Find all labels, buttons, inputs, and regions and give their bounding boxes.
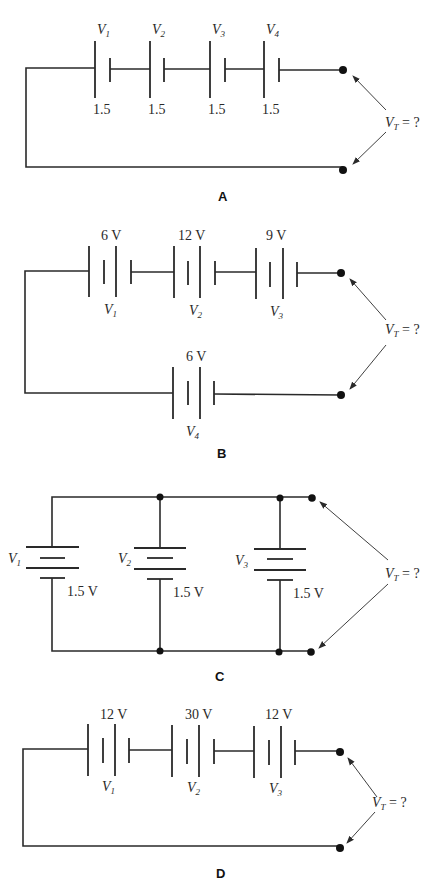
label-c-v1: V1: [8, 551, 21, 568]
circuit-b: 6 V 12 V 9 V 6 V V1 V2 V3 V4 VT = ? B: [25, 228, 420, 461]
label-a-v1: V1: [97, 22, 110, 39]
terminal-d-top: [336, 748, 344, 756]
value-d-v1: 12 V: [100, 707, 127, 722]
value-b-v3: 9 V: [266, 228, 286, 243]
label-a-v4: V4: [266, 22, 280, 39]
value-b-v2: 12 V: [178, 228, 205, 243]
cell-b-v2: [174, 246, 215, 298]
label-c-v2: V2: [118, 551, 132, 568]
arrow-icon: [353, 132, 386, 164]
label-a-v2: V2: [152, 22, 166, 39]
value-c-v2: 1.5 V: [173, 585, 204, 600]
value-a-v3: 1.5: [208, 102, 226, 117]
arrow-icon: [348, 758, 377, 797]
caption-b: B: [217, 446, 226, 461]
arrow-icon: [320, 502, 388, 560]
terminal-d-bottom: [336, 844, 344, 852]
label-d-v3: V3: [269, 781, 283, 798]
arrow-icon: [319, 584, 388, 648]
total-label-a: VT = ?: [385, 115, 420, 132]
cell-a-v1: [95, 41, 110, 98]
terminal-c-bottom: [307, 648, 315, 656]
label-a-v3: V3: [212, 22, 226, 39]
label-b-v4: V4: [186, 424, 200, 441]
cell-c-v2: [134, 548, 186, 579]
node-dot: [277, 495, 284, 502]
value-b-v1: 6 V: [101, 228, 121, 243]
node-dot: [157, 648, 164, 655]
total-label-b: VT = ?: [385, 322, 420, 339]
arrow-icon: [353, 76, 386, 110]
caption-c: C: [215, 669, 225, 684]
cell-a-v4: [264, 41, 279, 98]
node-dot: [276, 649, 283, 656]
cell-b-v3: [256, 248, 297, 299]
circuit-figure-sheet: V1 V2 V3 V4 1.5 1.5 1.5 1.5 VT = ? A: [0, 0, 443, 886]
cell-a-v2: [150, 41, 164, 98]
label-b-v1: V1: [104, 302, 117, 319]
cell-d-v2: [172, 725, 214, 777]
node-dot: [157, 494, 164, 501]
cell-c-v1: [26, 547, 79, 578]
cell-c-v3: [254, 549, 306, 580]
value-a-v1: 1.5: [93, 102, 111, 117]
cell-a-v3: [210, 41, 225, 98]
value-a-v2: 1.5: [148, 102, 166, 117]
total-label-c: VT = ?: [385, 566, 420, 583]
circuit-c: V1 V2 V3 1.5 V 1.5 V 1.5 V VT = ? C: [8, 494, 420, 685]
terminal-a-bottom: [339, 166, 347, 174]
arrow-icon: [350, 279, 386, 320]
terminal-a-top: [339, 66, 347, 74]
caption-a: A: [218, 189, 228, 204]
arrow-icon: [350, 345, 386, 389]
label-c-v3: V3: [235, 553, 249, 570]
value-c-v1: 1.5 V: [67, 584, 98, 599]
caption-d: D: [216, 866, 225, 881]
value-c-v3: 1.5 V: [293, 586, 324, 601]
terminal-b-top: [337, 269, 345, 277]
value-b-v4: 6 V: [186, 349, 206, 364]
value-a-v4: 1.5: [262, 102, 280, 117]
cell-d-v1: [88, 724, 129, 776]
terminal-c-top: [308, 494, 316, 502]
circuit-a: V1 V2 V3 V4 1.5 1.5 1.5 1.5 VT = ? A: [26, 22, 420, 204]
arrow-icon: [347, 812, 375, 843]
cell-b-v4: [173, 367, 214, 419]
cell-d-v3: [254, 726, 295, 778]
circuit-d: 12 V 30 V 12 V V1 V2 V3 VT = ? D: [23, 707, 407, 881]
label-d-v1: V1: [102, 779, 115, 796]
label-b-v3: V3: [270, 304, 284, 321]
value-d-v3: 12 V: [265, 707, 292, 722]
total-label-d: VT = ?: [372, 795, 407, 812]
terminal-b-bottom: [337, 391, 345, 399]
cell-b-v1: [89, 246, 131, 297]
label-b-v2: V2: [189, 303, 203, 320]
value-d-v2: 30 V: [185, 707, 212, 722]
label-d-v2: V2: [187, 780, 201, 797]
